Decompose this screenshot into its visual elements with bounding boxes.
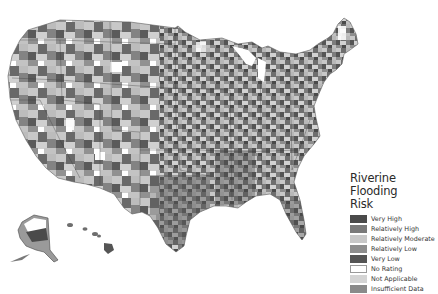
map-legend: Riverine Flooding Risk Very High Relativ… (350, 172, 438, 294)
swatch-relatively-moderate (350, 235, 367, 243)
legend-item-no-rating: No Rating (350, 264, 438, 274)
legend-title-line1: Riverine Flooding (350, 172, 438, 198)
legend-label: Very Low (371, 255, 400, 263)
swatch-not-applicable (350, 275, 367, 283)
legend-item-very-high: Very High (350, 214, 438, 224)
swatch-relatively-high (350, 225, 367, 233)
legend-item-very-low: Very Low (350, 254, 438, 264)
legend-label: Relatively Moderate (371, 235, 435, 243)
hawaii (67, 223, 114, 254)
legend-label: Not Applicable (371, 275, 417, 283)
swatch-relatively-low (350, 245, 367, 253)
legend-item-relatively-moderate: Relatively Moderate (350, 234, 438, 244)
legend-title-line2: Risk (350, 198, 438, 211)
swatch-no-rating (350, 265, 367, 273)
legend-label: Relatively Low (371, 245, 417, 253)
legend-item-relatively-low: Relatively Low (350, 244, 438, 254)
legend-label: No Rating (371, 265, 402, 273)
swatch-very-low (350, 255, 367, 263)
legend-item-not-applicable: Not Applicable (350, 274, 438, 284)
legend-label: Very High (371, 215, 402, 223)
contiguous-us (0, 0, 360, 260)
alaska (10, 215, 58, 262)
legend-label: Insufficient Data (371, 285, 424, 293)
legend-items: Very High Relatively High Relatively Mod… (350, 214, 438, 294)
legend-item-insufficient-data: Insufficient Data (350, 284, 438, 294)
swatch-insufficient-data (350, 285, 367, 293)
legend-title: Riverine Flooding Risk (350, 172, 438, 211)
legend-item-relatively-high: Relatively High (350, 224, 438, 234)
swatch-very-high (350, 215, 367, 223)
legend-label: Relatively High (371, 225, 419, 233)
